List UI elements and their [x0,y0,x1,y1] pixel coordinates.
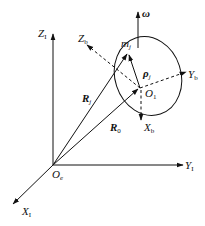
label-y-inertial: YI [185,159,194,173]
label-z-inertial: ZI [38,27,47,41]
label-z-body: Zb [78,32,88,46]
label-origin-e: Oe [52,168,63,182]
label-rho-j: ρj [142,67,151,81]
label-origin-1: O1 [145,87,157,101]
label-r-0: R0 [109,121,121,135]
label-x-body: Xb [143,121,155,135]
z-body-axis [87,45,140,88]
label-mass-j: mj [121,37,131,51]
coordinate-frame-diagram: ZI YI XI Oe O1 Zb Yb Xb mj Rj R0 ρj ω [0,0,205,226]
label-r-j: Rj [81,92,91,106]
r-j-vector [53,54,127,165]
label-omega: ω [142,7,150,19]
label-x-inertial: XI [21,205,32,219]
x-inertial-axis [13,165,53,204]
label-y-body: Yb [188,68,198,82]
